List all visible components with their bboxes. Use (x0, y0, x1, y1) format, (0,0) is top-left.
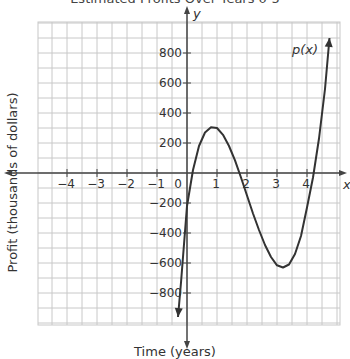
svg-text:1: 1 (212, 177, 220, 191)
svg-text:−400: −400 (149, 226, 182, 240)
svg-text:600: 600 (159, 76, 182, 90)
svg-text:−2: −2 (117, 177, 135, 191)
svg-text:200: 200 (159, 136, 182, 150)
svg-text:−800: −800 (149, 286, 182, 300)
svg-text:4: 4 (302, 177, 310, 191)
svg-text:−200: −200 (149, 196, 182, 210)
svg-text:−4: −4 (57, 177, 75, 191)
svg-text:3: 3 (272, 177, 280, 191)
svg-text:800: 800 (159, 46, 182, 60)
svg-text:400: 400 (159, 106, 182, 120)
svg-text:−3: −3 (87, 177, 105, 191)
svg-text:p(x): p(x) (291, 42, 318, 57)
svg-text:0: 0 (174, 177, 182, 191)
svg-text:x: x (342, 177, 350, 192)
svg-text:y: y (192, 6, 201, 21)
svg-text:−1: −1 (147, 177, 165, 191)
svg-text:−600: −600 (149, 256, 182, 270)
